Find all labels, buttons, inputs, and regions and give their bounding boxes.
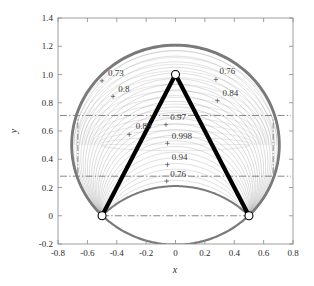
- x-tick-label: 0.4: [229, 248, 241, 258]
- y-tick-label: 1.0: [42, 70, 54, 80]
- y-tick-label: 0: [49, 211, 54, 221]
- x-tick-label: -0.4: [110, 248, 125, 258]
- plot-canvas: 0.730.80.760.840.890.970.9980.940.76 -0.…: [0, 0, 314, 286]
- y-tick-label: 0.8: [42, 98, 54, 108]
- vertex-marker-apex: [172, 71, 180, 79]
- contour-label: 0.73: [108, 68, 124, 78]
- x-tick-label: 0.6: [258, 248, 270, 258]
- contour-label: 0.84: [223, 88, 239, 98]
- x-tick-label: 0.2: [199, 248, 210, 258]
- contour-label: 0.76: [220, 66, 236, 76]
- y-axis-title: y: [8, 128, 19, 134]
- y-tick-label: -0.2: [39, 239, 53, 249]
- contour-label: 0.89: [136, 121, 152, 131]
- x-axis-title: x: [172, 264, 178, 275]
- y-tick-label: 0.4: [42, 154, 54, 164]
- contour-label: 0.97: [170, 112, 186, 122]
- x-tick-label: -0.2: [139, 248, 153, 258]
- contour-label: 0.94: [172, 152, 188, 162]
- x-tick-label: -0.8: [51, 248, 66, 258]
- x-tick-label: -0.6: [80, 248, 95, 258]
- vertex-marker-left-base: [98, 212, 106, 220]
- y-tick-label: 0.6: [42, 126, 54, 136]
- y-tick-label: 1.2: [42, 41, 53, 51]
- contour-label: 0.8: [118, 84, 130, 94]
- vertex-marker-right-base: [245, 212, 253, 220]
- x-tick-label: 0.8: [287, 248, 299, 258]
- x-tick-label: 0: [173, 248, 178, 258]
- contour-label: 0.998: [172, 131, 193, 141]
- contour-label: 0.76: [170, 169, 186, 179]
- chart-figure: 0.730.80.760.840.890.970.9980.940.76 -0.…: [0, 0, 314, 286]
- y-tick-label: 0.2: [42, 183, 53, 193]
- y-tick-label: 1.4: [42, 13, 54, 23]
